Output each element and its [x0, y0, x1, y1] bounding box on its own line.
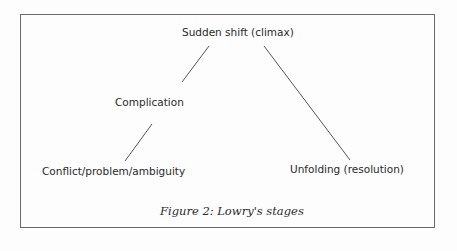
- figure-caption: Figure 2: Lowry's stages: [160, 204, 304, 218]
- node-complication: Complication: [115, 96, 184, 108]
- node-resolution: Unfolding (resolution): [290, 163, 404, 175]
- node-conflict: Conflict/problem/ambiguity: [42, 165, 185, 177]
- node-climax: Sudden shift (climax): [182, 26, 294, 38]
- line-climax-resolution: [264, 46, 350, 160]
- line-complication-conflict: [125, 124, 152, 161]
- line-climax-complication: [182, 46, 209, 82]
